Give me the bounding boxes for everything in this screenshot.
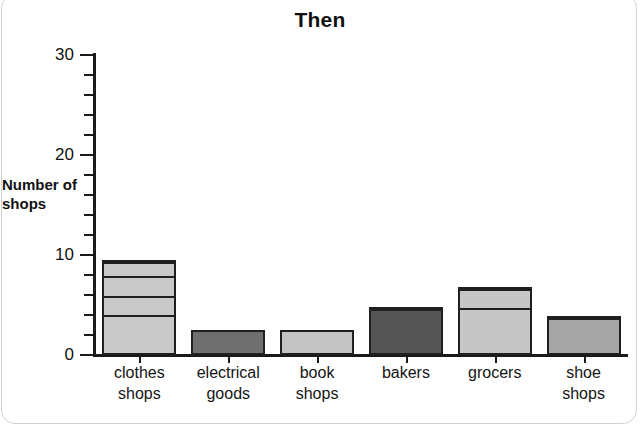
bar-segment — [371, 331, 441, 353]
x-label-shoe-shops: shoeshops — [539, 362, 628, 404]
y-tick-minor-22 — [84, 134, 94, 136]
y-tick-label-20: 20 — [0, 145, 74, 165]
y-tick-minor-6 — [84, 294, 94, 296]
bar-segment — [371, 309, 441, 331]
y-tick-label-0: 0 — [0, 345, 74, 365]
x-label-grocers: grocers — [450, 362, 539, 383]
x-label-line: shops — [539, 383, 628, 404]
bar-segment — [282, 332, 352, 353]
y-tick-label-10: 10 — [0, 245, 74, 265]
x-label-line: grocers — [450, 362, 539, 383]
y-tick-label-30: 30 — [0, 45, 74, 65]
bar-segment — [460, 329, 530, 353]
bar-segment — [104, 276, 174, 295]
y-tick-minor-28 — [84, 74, 94, 76]
bar-clothes-shops[interactable] — [102, 260, 176, 355]
y-tick-minor-14 — [84, 214, 94, 216]
y-tick-minor-24 — [84, 114, 94, 116]
bar-chart: Then 0102030 Number of shops clothesshop… — [0, 0, 640, 427]
x-label-line: electrical — [184, 362, 273, 383]
bar-segment — [549, 318, 619, 330]
bar-segment — [104, 296, 174, 315]
x-label-line: goods — [184, 383, 273, 404]
bar-bakers[interactable] — [369, 307, 443, 355]
y-tick-minor-8 — [84, 274, 94, 276]
bar-segment — [104, 262, 174, 276]
y-tick-major-20 — [80, 154, 94, 156]
y-tick-minor-12 — [84, 234, 94, 236]
x-label-line: book — [273, 362, 362, 383]
bar-segment — [104, 315, 174, 334]
y-axis-title: Number of shops — [2, 176, 88, 213]
page-canvas: Then 0102030 Number of shops clothesshop… — [0, 0, 640, 427]
x-label-bakers: bakers — [362, 362, 451, 383]
y-tick-minor-26 — [84, 94, 94, 96]
y-axis-title-line-1: Number — [2, 176, 59, 193]
bar-electrical-goods[interactable] — [191, 330, 265, 355]
x-label-line: shops — [95, 383, 184, 404]
bar-grocers[interactable] — [458, 287, 532, 355]
x-label-line: clothes — [95, 362, 184, 383]
y-tick-minor-4 — [84, 314, 94, 316]
x-label-book-shops: bookshops — [273, 362, 362, 404]
bar-shoe-shops[interactable] — [547, 316, 621, 355]
bar-segment — [460, 289, 530, 308]
bar-segment — [104, 334, 174, 353]
y-tick-minor-2 — [84, 334, 94, 336]
x-label-electrical-goods: electricalgoods — [184, 362, 273, 404]
y-tick-major-10 — [80, 254, 94, 256]
x-label-clothes-shops: clothesshops — [95, 362, 184, 404]
x-label-line: shoe — [539, 362, 628, 383]
y-axis-line — [93, 53, 96, 357]
y-tick-major-30 — [80, 54, 94, 56]
x-label-line: bakers — [362, 362, 451, 383]
chart-title: Then — [0, 8, 640, 32]
bar-segment — [460, 308, 530, 329]
x-label-line: shops — [273, 383, 362, 404]
bar-book-shops[interactable] — [280, 330, 354, 355]
bar-segment — [193, 332, 263, 353]
y-tick-major-0 — [80, 354, 94, 356]
bar-segment — [549, 330, 619, 353]
